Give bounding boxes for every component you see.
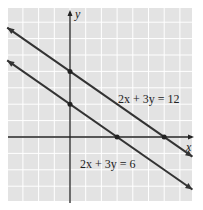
intercept-point — [68, 69, 73, 74]
intercept-point — [162, 135, 167, 140]
y-axis-label: y — [74, 7, 81, 21]
graph: x y 2x + 3y = 12 2x + 3y = 6 — [0, 0, 203, 210]
intercept-point — [68, 102, 73, 107]
line1-label: 2x + 3y = 12 — [118, 92, 180, 106]
intercept-point — [115, 135, 120, 140]
line2-label: 2x + 3y = 6 — [80, 157, 136, 171]
